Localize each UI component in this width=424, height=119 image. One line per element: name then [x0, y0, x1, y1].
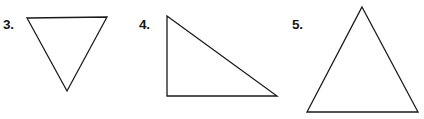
item-label-3: 3. — [3, 18, 14, 32]
triangle-shape-4 — [167, 16, 277, 96]
triangle-shapes-layer — [0, 0, 424, 119]
triangle-shape-5 — [307, 7, 418, 112]
item-label-5: 5. — [292, 18, 303, 32]
triangle-shape-3 — [27, 17, 107, 91]
item-label-4: 4. — [139, 18, 150, 32]
figure-canvas: 3. 4. 5. — [0, 0, 424, 119]
